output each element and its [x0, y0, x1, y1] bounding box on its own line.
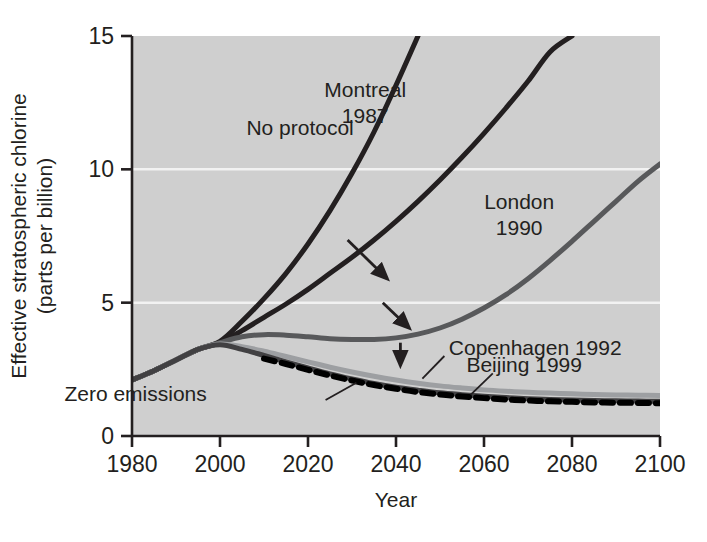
series-label-london-1990-line2: 1990 [496, 216, 543, 239]
y-tick-label-0: 0 [101, 423, 114, 449]
x-tick-label-2000: 2000 [194, 451, 245, 477]
y-axis-title-line2: (parts per billion) [33, 158, 56, 314]
y-tick-label-10: 10 [88, 156, 114, 182]
x-axis-tick-labels: 1980200020202040206020802100 [106, 451, 685, 477]
series-label-zero-emissions: Zero emissions [64, 382, 206, 405]
ozone-chlorine-line-chart: 1980200020202040206020802100 051015 Year… [0, 0, 707, 542]
series-label-montreal-1987-line1: Montreal [324, 78, 406, 101]
series-label-montreal-1987-line2: 1987 [342, 104, 389, 127]
x-tick-label-2040: 2040 [370, 451, 421, 477]
series-label-no-protocol: No protocol [246, 116, 353, 139]
y-axis-title-line1: Effective stratospheric chlorine [7, 93, 30, 379]
x-tick-label-2020: 2020 [282, 451, 333, 477]
x-tick-label-1980: 1980 [106, 451, 157, 477]
series-label-beijing-1999: Beijing 1999 [466, 353, 582, 376]
x-tick-label-2100: 2100 [634, 451, 685, 477]
y-tick-label-5: 5 [101, 290, 114, 316]
x-axis-title: Year [375, 488, 417, 511]
x-tick-label-2080: 2080 [546, 451, 597, 477]
chart-figure: 1980200020202040206020802100 051015 Year… [0, 0, 707, 542]
y-tick-label-15: 15 [88, 23, 114, 49]
series-label-london-1990-line1: London [484, 190, 554, 213]
x-tick-label-2060: 2060 [458, 451, 509, 477]
